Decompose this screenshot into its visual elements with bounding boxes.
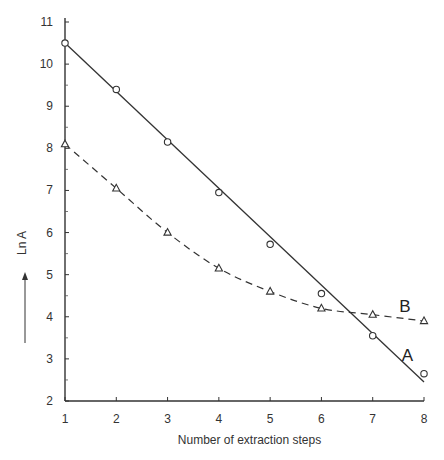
series-a-marker-circle: [216, 189, 222, 195]
series-a-fit-line: [65, 43, 424, 382]
x-tick-label: 6: [318, 412, 325, 426]
series-a-marker-circle: [164, 139, 170, 145]
series-b-marker-triangle: [215, 264, 222, 271]
series-b-marker-triangle: [164, 229, 171, 236]
x-tick-label: 5: [267, 412, 274, 426]
x-tick-label: 2: [113, 412, 120, 426]
series-a-marker-circle: [318, 290, 324, 296]
series-a-marker-circle: [267, 241, 273, 247]
x-tick-label: 7: [369, 412, 376, 426]
x-tick-label: 8: [421, 412, 428, 426]
series-b-marker-triangle: [61, 140, 68, 147]
series-b-marker-triangle: [267, 288, 274, 295]
chart: 23456789101112345678Number of extraction…: [0, 0, 444, 460]
y-tick-label: 5: [46, 268, 53, 282]
up-arrow-head-icon: [22, 272, 28, 280]
series-a-marker-circle: [113, 86, 119, 92]
series-b-marker-triangle: [369, 311, 376, 318]
y-tick-label: 2: [46, 394, 53, 408]
series-label-b: B: [399, 297, 410, 316]
axes: 23456789101112345678Number of extraction…: [15, 15, 428, 447]
y-tick-label: 7: [46, 183, 53, 197]
series-b-marker-triangle: [113, 184, 120, 191]
x-axis-title: Number of extraction steps: [178, 433, 321, 447]
y-tick-label: 11: [41, 15, 54, 29]
y-axis-title: Ln A: [15, 231, 29, 255]
x-tick-label: 4: [216, 412, 223, 426]
series-a-marker-circle: [421, 370, 427, 376]
x-tick-label: 1: [62, 412, 69, 426]
series-b-fit-curve: [65, 144, 424, 321]
y-tick-label: 10: [40, 57, 54, 71]
series-a-marker-circle: [62, 40, 68, 46]
y-tick-label: 4: [46, 310, 53, 324]
y-tick-label: 3: [46, 352, 53, 366]
y-tick-label: 8: [46, 141, 53, 155]
y-tick-label: 9: [46, 99, 53, 113]
labels-layer: AB: [399, 297, 414, 364]
x-tick-label: 3: [164, 412, 171, 426]
series-layer: [61, 40, 427, 382]
y-tick-label: 6: [46, 226, 53, 240]
series-a-marker-circle: [370, 333, 376, 339]
series-label-a: A: [402, 346, 414, 365]
